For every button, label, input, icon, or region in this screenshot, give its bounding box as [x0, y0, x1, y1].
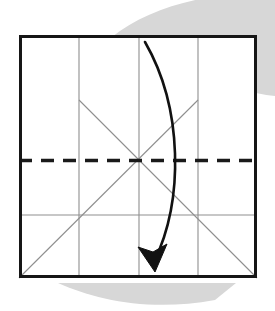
origami-diagram-canvas [0, 0, 275, 311]
origami-diagram: Origami crease pattern with valley fold … [0, 0, 275, 311]
